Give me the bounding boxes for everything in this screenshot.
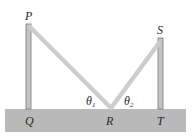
label-q: Q — [25, 114, 34, 128]
label-s: S — [157, 23, 163, 37]
label-p: P — [24, 9, 33, 23]
wire-pr — [30, 27, 111, 108]
reflection-diagram: P S Q R T θ1 θ2 — [0, 0, 193, 140]
wire-rs — [111, 43, 159, 108]
label-r: R — [105, 114, 114, 128]
post-pq — [26, 24, 31, 109]
angle-theta2: θ2 — [124, 94, 134, 109]
angle-theta1: θ1 — [86, 94, 95, 109]
post-st — [158, 38, 163, 109]
